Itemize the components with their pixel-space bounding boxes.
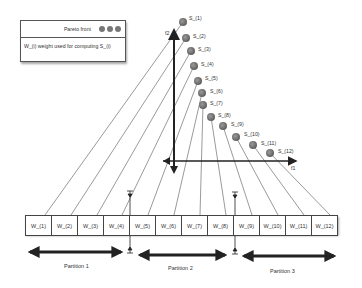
point-label: S_(2)	[193, 33, 206, 39]
point-label: S_(6)	[210, 88, 223, 94]
weight-cell: W_(3)	[77, 215, 104, 236]
legend-pareto-row: Pareto front	[21, 21, 125, 38]
objective-axes	[163, 30, 296, 174]
legend-pareto-label: Pareto front	[64, 26, 91, 32]
point-label: S_(12)	[278, 148, 294, 154]
weight-cell: W_(8)	[207, 215, 234, 236]
weight-cell: W_(4)	[103, 215, 130, 236]
weight-vector-row: W_(1) W_(2) W_(3) W_(4) W_(5) W_(6) W_(7…	[25, 215, 338, 234]
point-label: S_(1)	[189, 15, 202, 21]
f2-axis-label: f2	[165, 30, 169, 36]
partition-2-label: Partition 2	[168, 265, 193, 271]
point-label: S_(7)	[210, 100, 223, 106]
point-label: S_(10)	[244, 131, 260, 137]
weight-cell: W_(6)	[155, 215, 182, 236]
point-label: S_(11)	[261, 140, 276, 146]
legend-box: Pareto front W_(i) weight used for compu…	[20, 20, 126, 62]
weight-cell: W_(9)	[233, 215, 260, 236]
weight-cell: W_(10)	[259, 215, 286, 236]
point-label: S_(3)	[198, 46, 211, 52]
weight-cell: W_(12)	[311, 215, 338, 236]
point-label: S_(4)	[201, 61, 214, 67]
weight-cell: W_(2)	[51, 215, 78, 236]
partition-1-label: Partition 1	[64, 263, 89, 269]
legend-pareto-dots-icon	[99, 26, 121, 32]
point-label: S_(5)	[205, 75, 218, 81]
weight-cell: W_(7)	[181, 215, 208, 236]
partition-3-label: Partition 3	[270, 268, 295, 274]
weight-cell: W_(1)	[25, 215, 52, 236]
point-label: S_(8)	[218, 112, 231, 118]
weight-cell: W_(11)	[285, 215, 312, 236]
partition-arrows	[30, 252, 334, 256]
point-label: S_(9)	[231, 121, 244, 127]
weight-cell: W_(5)	[129, 215, 156, 236]
f1-axis-label: f1	[291, 165, 295, 171]
legend-weight-label: W_(i) weight used for computing S_(i)	[24, 43, 111, 49]
